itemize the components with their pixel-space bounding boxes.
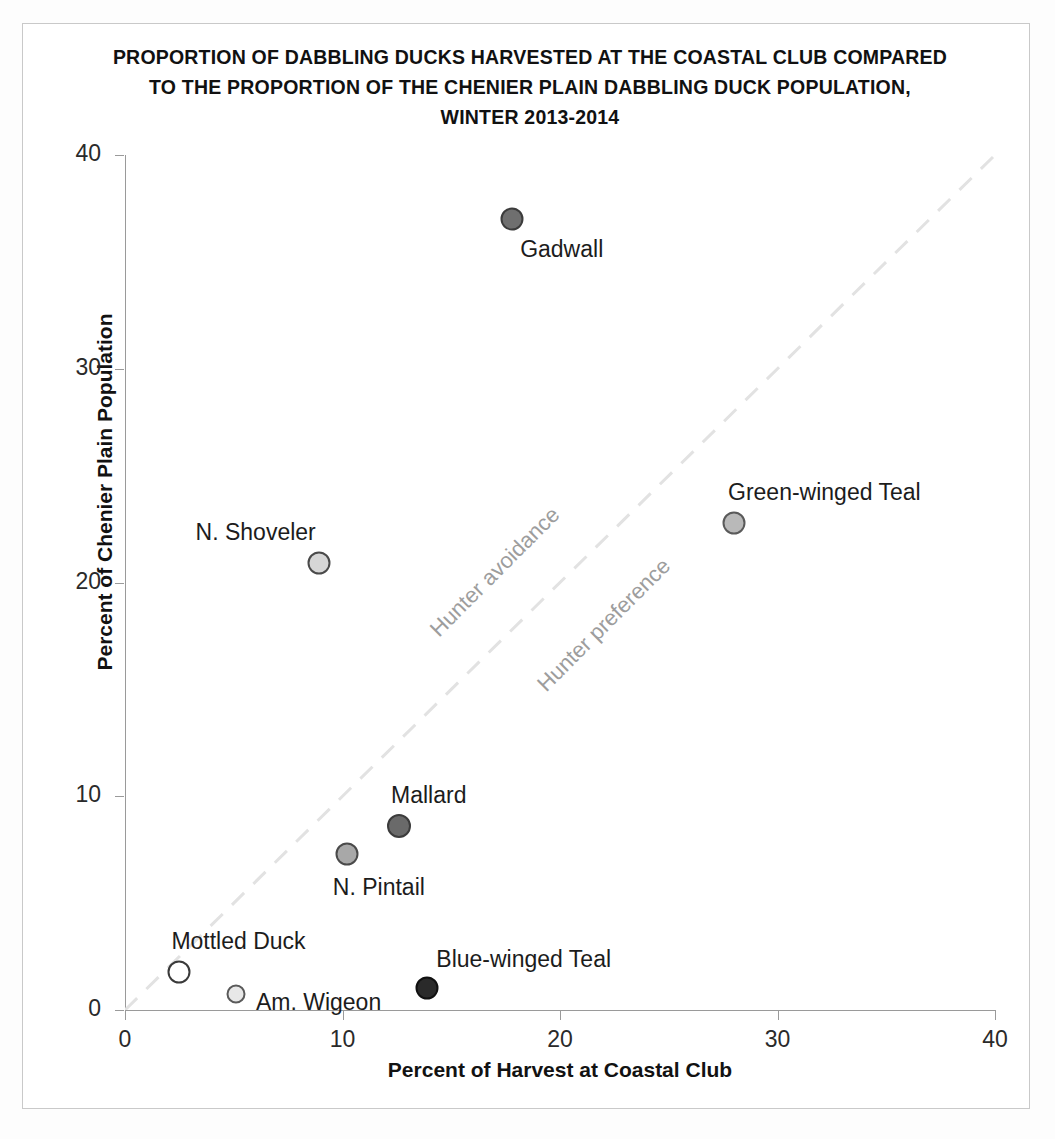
chart-title-line-3: WINTER 2013-2014	[90, 102, 970, 132]
plot-area: Hunter avoidanceHunter preference Gadwal…	[125, 155, 995, 1010]
data-point-marker[interactable]	[307, 552, 330, 575]
data-point-label: Am. Wigeon	[256, 989, 381, 1016]
x-axis-tick	[125, 1010, 126, 1020]
y-axis-tick	[115, 369, 124, 370]
y-axis-tick	[115, 583, 124, 584]
chart-title-line-2: TO THE PROPORTION OF THE CHENIER PLAIN D…	[90, 72, 970, 102]
y-axis-title: Percent of Chenier Plain Population	[93, 112, 117, 872]
x-axis-tick-label: 0	[90, 1026, 160, 1053]
diagonal-annotation-1: Hunter avoidance	[425, 502, 565, 642]
diagonal-annotation-2: Hunter preference	[532, 553, 676, 697]
data-point-label: Blue-winged Teal	[436, 946, 611, 973]
data-point-marker[interactable]	[501, 208, 524, 231]
x-axis-tick-label: 40	[960, 1026, 1030, 1053]
y-axis-tick-label: 30	[31, 354, 101, 381]
data-point-label: Mallard	[391, 782, 466, 809]
y-axis-tick	[115, 155, 124, 156]
data-point-marker[interactable]	[416, 976, 439, 999]
x-axis-tick	[778, 1010, 779, 1020]
y-axis-tick-label: 40	[31, 140, 101, 167]
data-point-label: N. Pintail	[333, 874, 425, 901]
figure-canvas: PROPORTION OF DABBLING DUCKS HARVESTED A…	[0, 0, 1055, 1139]
x-axis-tick	[560, 1010, 561, 1020]
y-axis-tick	[115, 796, 124, 797]
y-axis-tick-label: 10	[31, 781, 101, 808]
data-point-label: Gadwall	[520, 236, 603, 263]
chart-title: PROPORTION OF DABBLING DUCKS HARVESTED A…	[90, 42, 970, 132]
data-point-label: Mottled Duck	[171, 928, 305, 955]
data-point-label: N. Shoveler	[196, 519, 316, 546]
x-axis-tick-label: 30	[743, 1026, 813, 1053]
chart-title-line-1: PROPORTION OF DABBLING DUCKS HARVESTED A…	[90, 42, 970, 72]
data-point-marker[interactable]	[226, 984, 245, 1003]
y-axis-tick	[115, 1010, 124, 1011]
data-point-label: Green-winged Teal	[728, 479, 921, 506]
data-point-marker[interactable]	[723, 511, 746, 534]
data-point-marker[interactable]	[387, 814, 411, 838]
x-axis-tick-label: 10	[308, 1026, 378, 1053]
data-point-marker[interactable]	[168, 960, 191, 983]
x-axis-title: Percent of Harvest at Coastal Club	[125, 1058, 995, 1082]
x-axis-tick	[995, 1010, 996, 1020]
y-axis-tick-label: 20	[31, 568, 101, 595]
x-axis-tick-label: 20	[525, 1026, 595, 1053]
data-point-marker[interactable]	[335, 842, 358, 865]
y-axis-tick-label: 0	[31, 995, 101, 1022]
one-to-one-reference-line	[125, 155, 995, 1010]
